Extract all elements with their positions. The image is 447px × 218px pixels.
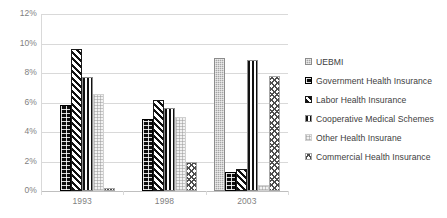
x-tick-mark: [288, 191, 289, 195]
legend-swatch-icon: [305, 115, 312, 122]
bar-group: [123, 14, 205, 191]
bar: [214, 58, 225, 191]
x-tick-label: 2003: [206, 196, 288, 206]
legend-item[interactable]: Other Health Insurane: [305, 128, 447, 147]
x-tick-mark: [123, 191, 124, 195]
legend-item[interactable]: Cooperative Medical Schemes: [305, 109, 447, 128]
bar: [247, 60, 258, 191]
bar: [164, 108, 175, 191]
x-tick-mark: [206, 191, 207, 195]
legend-swatch-icon: [305, 77, 312, 84]
axis-baseline: [41, 191, 288, 192]
y-tick-label: 12%: [3, 9, 37, 18]
bar: [153, 100, 164, 191]
legend-item-label: Commercial Health Insurance: [316, 152, 431, 162]
bar-group: [41, 14, 123, 191]
legend-item-label: Labor Health Insurance: [316, 95, 406, 105]
x-tick-label: 1998: [123, 196, 205, 206]
legend-swatch-icon: [305, 96, 312, 103]
bar: [186, 162, 197, 192]
legend-swatch-icon: [305, 58, 312, 65]
legend-item[interactable]: Government Health Insurance: [305, 71, 447, 90]
bar: [175, 117, 186, 191]
legend-swatch-icon: [305, 153, 312, 160]
legend-item[interactable]: UEBMI: [305, 52, 447, 71]
bar: [71, 49, 82, 191]
plot-area: [41, 14, 288, 191]
y-axis-labels: 0%2%4%6%8%10%12%: [0, 0, 37, 218]
y-tick-label: 10%: [3, 39, 37, 48]
legend-item-label: Cooperative Medical Schemes: [316, 114, 434, 124]
legend-item-label: UEBMI: [316, 57, 343, 67]
chart-legend: UEBMIGovernment Health InsuranceLabor He…: [305, 52, 447, 166]
legend-item[interactable]: Commercial Health Insurance: [305, 147, 447, 166]
bar: [225, 172, 236, 191]
y-tick-label: 4%: [3, 127, 37, 136]
y-tick-label: 2%: [3, 157, 37, 166]
x-tick-mark: [41, 191, 42, 195]
legend-item-label: Government Health Insurance: [316, 76, 432, 86]
bar-chart: 0%2%4%6%8%10%12% 199319982003 UEBMIGover…: [0, 0, 447, 218]
bar: [142, 119, 153, 191]
x-tick-label: 1993: [41, 196, 123, 206]
bar: [60, 105, 71, 191]
bar: [236, 169, 247, 191]
bar: [93, 94, 104, 191]
y-tick-label: 0%: [3, 186, 37, 195]
legend-item[interactable]: Labor Health Insurance: [305, 90, 447, 109]
y-tick-label: 8%: [3, 68, 37, 77]
y-tick-label: 6%: [3, 98, 37, 107]
bar: [269, 76, 280, 191]
bar-group: [206, 14, 288, 191]
legend-swatch-icon: [305, 134, 312, 141]
bar: [258, 185, 269, 191]
bar: [82, 77, 93, 191]
bar: [104, 188, 115, 191]
legend-item-label: Other Health Insurane: [316, 133, 402, 143]
